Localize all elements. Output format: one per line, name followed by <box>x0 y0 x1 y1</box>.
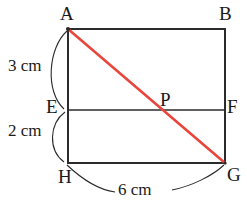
measure-label-hg: 6 cm <box>118 181 152 198</box>
vertex-dot-a <box>66 27 70 31</box>
measure-label-eh: 2 cm <box>8 122 42 139</box>
dimension-arc-6cm-right <box>172 165 224 190</box>
vertex-label-a: A <box>60 4 74 23</box>
vertex-label-h: H <box>58 167 72 186</box>
dimension-arc-6cm-left <box>67 165 115 192</box>
geometry-canvas <box>0 0 247 206</box>
vertex-label-p: P <box>160 90 171 109</box>
dimension-arc-2cm <box>52 112 65 162</box>
vertex-label-f: F <box>227 97 238 116</box>
vertex-label-b: B <box>219 4 232 23</box>
vertex-label-g: G <box>227 165 241 184</box>
vertex-label-e: E <box>46 97 58 116</box>
segment-ag-diagonal <box>68 29 225 163</box>
measure-label-ae: 3 cm <box>8 57 42 74</box>
geometry-figure: A B E F P H G 3 cm 2 cm 6 cm <box>0 0 247 206</box>
